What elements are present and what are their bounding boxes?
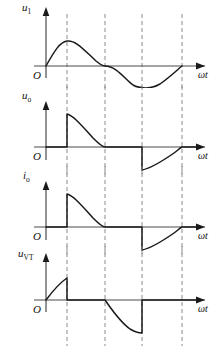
panel-i0-origin-label: O bbox=[33, 231, 41, 242]
panel-i0-signal-label: io bbox=[23, 170, 30, 184]
panel-u1-waveform bbox=[46, 41, 182, 88]
panel-u1-y-axis-arrow bbox=[43, 7, 50, 16]
panel-u0-time-axis-label: ωt bbox=[198, 151, 208, 161]
panel-uvt-y-axis-arrow bbox=[43, 253, 50, 262]
panel-uvt-time-axis-label: ωt bbox=[198, 304, 208, 314]
panel-u1-signal-label: u1 bbox=[22, 2, 31, 16]
panel-uvt: uVT O ωt bbox=[0, 246, 222, 355]
panel-u0-gridlines bbox=[67, 86, 182, 174]
panel-uvt-origin-label: O bbox=[33, 304, 41, 315]
panel-i0: io O ωt bbox=[0, 166, 222, 254]
panel-u0-y-axis-arrow bbox=[43, 101, 50, 110]
panel-i0-waveform bbox=[46, 194, 196, 250]
panel-uvt-plot bbox=[0, 246, 222, 355]
panel-i0-time-axis-label: ωt bbox=[198, 231, 208, 241]
panel-u1-time-axis-label: ωt bbox=[198, 70, 208, 80]
panel-uvt-waveform bbox=[46, 278, 196, 333]
panel-uvt-gridlines bbox=[67, 246, 182, 346]
panel-u0-origin-label: O bbox=[33, 151, 41, 162]
panel-u0-waveform bbox=[46, 114, 196, 170]
panel-i0-gridlines bbox=[67, 166, 182, 254]
panel-u1-origin-label: O bbox=[33, 70, 41, 81]
panel-i0-y-axis-arrow bbox=[43, 181, 50, 190]
panel-u1: u1 O ωt bbox=[0, 0, 222, 88]
panel-u0: uo O ωt bbox=[0, 86, 222, 174]
waveform-figure: u1 O ωt uo O ωt bbox=[0, 0, 222, 355]
panel-u0-signal-label: uo bbox=[22, 90, 31, 104]
panel-uvt-signal-label: uVT bbox=[18, 248, 34, 262]
